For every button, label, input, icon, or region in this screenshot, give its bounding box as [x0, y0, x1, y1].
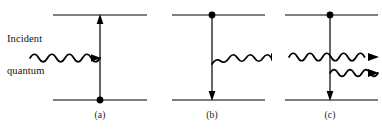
- incident-photon-wave: [30, 54, 100, 62]
- electron-dot-upper: [327, 12, 334, 19]
- panel-caption-c: (c): [310, 110, 350, 120]
- emitted-photon-wave: [212, 55, 272, 64]
- stimulating-photon-wave: [289, 53, 365, 61]
- panel-caption-a: (a): [80, 110, 120, 120]
- panel-caption-b: (b): [192, 110, 232, 120]
- electron-dot-upper: [209, 12, 216, 19]
- stimulating-photon-arrowhead: [368, 53, 379, 61]
- energy-level-diagram-figure: Incident quantum: [0, 0, 382, 134]
- electron-dot-lower: [97, 97, 104, 104]
